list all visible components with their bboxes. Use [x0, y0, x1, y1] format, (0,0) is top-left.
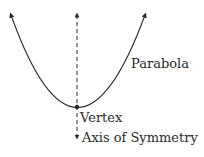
parabola-label: Parabola [131, 56, 189, 71]
axis-label: Axis of Symmetry [81, 130, 198, 145]
parabola-curve [11, 15, 145, 108]
vertex-point [75, 105, 79, 109]
vertex-label: Vertex [79, 110, 123, 125]
parabola-diagram: Parabola Vertex Axis of Symmetry [0, 0, 204, 157]
